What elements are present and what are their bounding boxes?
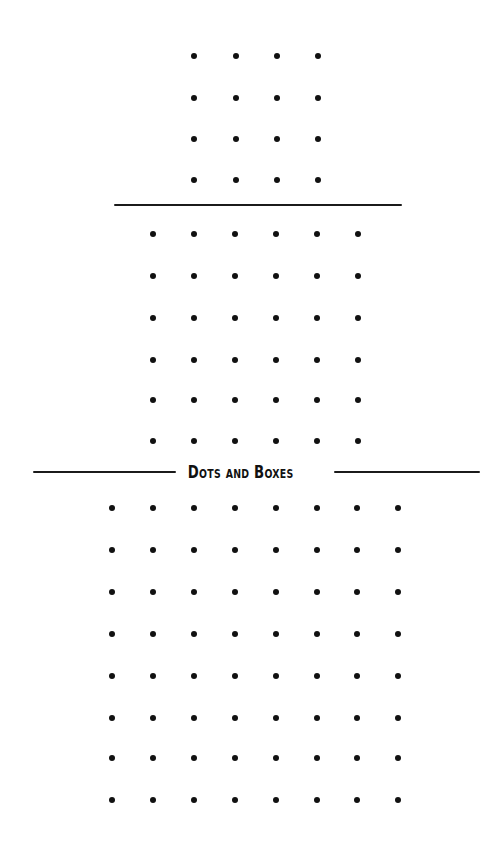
dot[interactable] — [232, 755, 238, 761]
dot[interactable] — [109, 797, 115, 803]
dot[interactable] — [150, 438, 156, 444]
dot[interactable] — [232, 715, 238, 721]
dot[interactable] — [395, 589, 401, 595]
dot[interactable] — [354, 547, 360, 553]
dot[interactable] — [150, 315, 156, 321]
dot[interactable] — [314, 315, 320, 321]
dot[interactable] — [233, 177, 239, 183]
dot[interactable] — [273, 438, 279, 444]
dot[interactable] — [150, 673, 156, 679]
dot[interactable] — [191, 397, 197, 403]
dot[interactable] — [232, 397, 238, 403]
dot[interactable] — [315, 177, 321, 183]
dot[interactable] — [314, 231, 320, 237]
dot[interactable] — [395, 673, 401, 679]
dot[interactable] — [314, 631, 320, 637]
dot[interactable] — [314, 547, 320, 553]
dot[interactable] — [314, 273, 320, 279]
dot[interactable] — [150, 397, 156, 403]
dot[interactable] — [150, 631, 156, 637]
dot[interactable] — [191, 797, 197, 803]
dot[interactable] — [191, 273, 197, 279]
dot[interactable] — [150, 715, 156, 721]
dot[interactable] — [273, 397, 279, 403]
dot[interactable] — [232, 631, 238, 637]
dot[interactable] — [355, 438, 361, 444]
dot[interactable] — [191, 631, 197, 637]
dot[interactable] — [232, 673, 238, 679]
dot[interactable] — [314, 755, 320, 761]
dot[interactable] — [273, 589, 279, 595]
dot[interactable] — [232, 273, 238, 279]
dot[interactable] — [232, 547, 238, 553]
dot[interactable] — [109, 547, 115, 553]
dot[interactable] — [232, 589, 238, 595]
dot[interactable] — [315, 136, 321, 142]
dot[interactable] — [150, 231, 156, 237]
dot[interactable] — [314, 438, 320, 444]
dot[interactable] — [354, 755, 360, 761]
dot[interactable] — [191, 136, 197, 142]
dot[interactable] — [191, 505, 197, 511]
dot[interactable] — [355, 315, 361, 321]
dot[interactable] — [150, 797, 156, 803]
dot[interactable] — [314, 397, 320, 403]
dot[interactable] — [273, 715, 279, 721]
dot[interactable] — [191, 547, 197, 553]
dot[interactable] — [150, 505, 156, 511]
dot[interactable] — [232, 357, 238, 363]
dot[interactable] — [191, 177, 197, 183]
dot[interactable] — [109, 631, 115, 637]
dot[interactable] — [191, 715, 197, 721]
dot[interactable] — [354, 589, 360, 595]
dot[interactable] — [191, 357, 197, 363]
dot[interactable] — [354, 631, 360, 637]
dot[interactable] — [395, 547, 401, 553]
dot[interactable] — [355, 397, 361, 403]
dot[interactable] — [232, 315, 238, 321]
dot[interactable] — [109, 505, 115, 511]
dot[interactable] — [233, 53, 239, 59]
dot[interactable] — [191, 95, 197, 101]
dot[interactable] — [109, 755, 115, 761]
dot[interactable] — [150, 589, 156, 595]
dot[interactable] — [314, 357, 320, 363]
dot[interactable] — [191, 231, 197, 237]
dot[interactable] — [274, 53, 280, 59]
dot[interactable] — [273, 547, 279, 553]
dot[interactable] — [355, 357, 361, 363]
dot[interactable] — [191, 673, 197, 679]
dot[interactable] — [191, 53, 197, 59]
dot[interactable] — [274, 95, 280, 101]
dot[interactable] — [232, 797, 238, 803]
dot[interactable] — [274, 177, 280, 183]
dot[interactable] — [315, 53, 321, 59]
dot[interactable] — [273, 231, 279, 237]
dot[interactable] — [354, 715, 360, 721]
dot[interactable] — [273, 673, 279, 679]
dot[interactable] — [354, 797, 360, 803]
dot[interactable] — [150, 273, 156, 279]
dot[interactable] — [232, 438, 238, 444]
dot[interactable] — [273, 273, 279, 279]
dot[interactable] — [354, 505, 360, 511]
dot[interactable] — [109, 589, 115, 595]
dot[interactable] — [273, 505, 279, 511]
dot[interactable] — [150, 547, 156, 553]
dot[interactable] — [395, 797, 401, 803]
dot[interactable] — [274, 136, 280, 142]
dot[interactable] — [395, 505, 401, 511]
dot[interactable] — [314, 505, 320, 511]
dot[interactable] — [232, 231, 238, 237]
dot[interactable] — [273, 797, 279, 803]
dot[interactable] — [109, 715, 115, 721]
dot[interactable] — [191, 438, 197, 444]
dot[interactable] — [395, 715, 401, 721]
dot[interactable] — [109, 673, 115, 679]
dot[interactable] — [314, 797, 320, 803]
dot[interactable] — [354, 673, 360, 679]
dot[interactable] — [314, 715, 320, 721]
dot[interactable] — [150, 755, 156, 761]
dot[interactable] — [355, 273, 361, 279]
dot[interactable] — [355, 231, 361, 237]
